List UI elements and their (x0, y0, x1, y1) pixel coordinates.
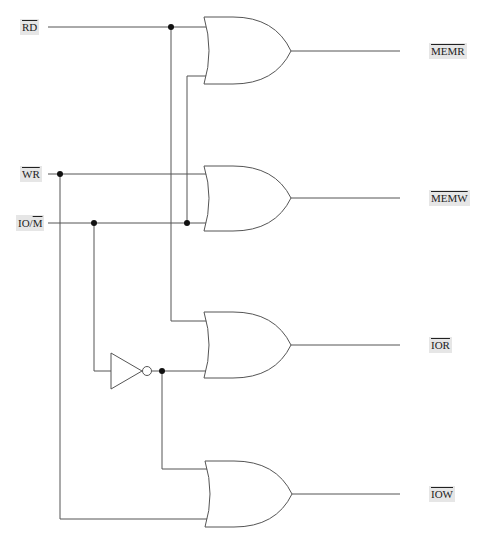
junction-dot (91, 220, 97, 226)
iom-to-inverter-wire (94, 223, 111, 371)
junction-dot (168, 24, 174, 30)
output-label-memw: MEMW (429, 190, 470, 206)
or-gate-memr (204, 17, 400, 84)
junction-dot (184, 220, 190, 226)
input-label-wr: WR (20, 166, 42, 182)
wr-branch-wire (60, 174, 208, 519)
inverter-bubble (143, 367, 152, 376)
or-gate-iow (205, 461, 400, 527)
or-gate-memw (204, 166, 400, 231)
output-label-ior: IOR (429, 337, 452, 353)
not-gate (111, 353, 142, 389)
junction-dot (159, 368, 165, 374)
output-label-memr: MEMR (429, 43, 467, 59)
input-label-iom: IO/M (16, 215, 44, 231)
iom-to-gate1-wire (187, 76, 208, 223)
not-iom-branch-wire (162, 371, 208, 469)
junction-dot (57, 171, 63, 177)
logic-circuit-diagram (0, 0, 485, 543)
output-label-iow: IOW (429, 486, 455, 502)
input-label-rd: RD (20, 19, 39, 35)
or-gate-ior (204, 312, 400, 378)
